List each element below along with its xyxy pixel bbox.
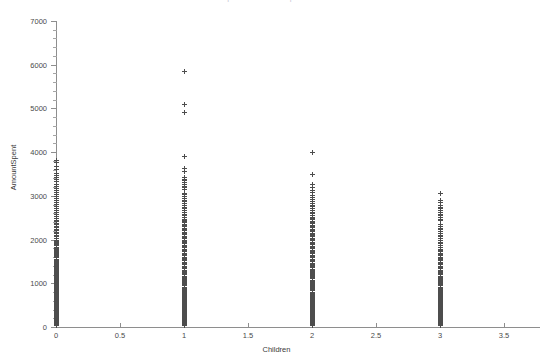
data-point — [182, 283, 187, 288]
data-point — [310, 304, 315, 309]
data-point — [310, 172, 315, 177]
data-point — [310, 225, 315, 230]
data-point — [438, 286, 443, 291]
data-point — [310, 215, 315, 220]
data-point — [438, 261, 443, 266]
data-point — [438, 312, 443, 317]
data-point — [310, 229, 315, 234]
data-point — [182, 240, 187, 245]
data-point — [310, 270, 315, 275]
data-point — [182, 260, 187, 265]
data-point — [438, 316, 443, 321]
data-point — [310, 217, 315, 222]
data-point — [438, 283, 443, 288]
data-point — [182, 219, 187, 224]
data-point — [310, 257, 315, 262]
data-point — [182, 307, 187, 312]
data-point — [438, 271, 443, 276]
data-point — [310, 271, 315, 276]
data-point — [438, 310, 443, 315]
data-point — [182, 231, 187, 236]
data-point — [182, 261, 187, 266]
data-point — [310, 308, 315, 313]
x-tick-label: 3.5 — [484, 331, 524, 340]
y-tick — [51, 65, 57, 66]
data-point — [182, 272, 187, 277]
data-point — [438, 268, 443, 273]
data-point — [310, 262, 315, 267]
data-point — [438, 314, 443, 319]
data-point — [310, 311, 315, 316]
data-point — [438, 233, 443, 238]
data-point — [182, 166, 187, 171]
data-point — [438, 236, 443, 241]
data-point — [438, 205, 443, 210]
y-tick-minor — [53, 135, 57, 136]
data-point — [310, 308, 315, 313]
data-point — [310, 272, 315, 277]
data-point — [182, 305, 187, 310]
data-point — [310, 238, 315, 243]
data-point — [310, 275, 315, 280]
data-point — [438, 213, 443, 218]
y-tick-minor — [53, 275, 57, 276]
data-point — [182, 303, 187, 308]
y-tick-minor — [53, 73, 57, 74]
data-point — [438, 226, 443, 231]
data-point — [438, 300, 443, 305]
data-point — [438, 227, 443, 232]
data-point — [310, 253, 315, 258]
data-point — [182, 307, 187, 312]
data-point — [310, 276, 315, 281]
data-point — [310, 245, 315, 250]
data-point — [310, 294, 315, 299]
data-point — [182, 235, 187, 240]
data-point — [438, 229, 443, 234]
data-point — [310, 311, 315, 316]
x-tick-label: 0.5 — [100, 331, 140, 340]
x-tick-label: 2.5 — [356, 331, 396, 340]
x-tick — [440, 323, 441, 328]
data-point — [438, 308, 443, 313]
data-point — [182, 234, 187, 239]
data-point — [438, 305, 443, 310]
data-point — [438, 272, 443, 277]
data-point — [182, 217, 187, 222]
data-point — [310, 296, 315, 301]
data-point — [182, 296, 187, 301]
data-point — [310, 199, 315, 204]
data-point — [438, 304, 443, 309]
data-point — [310, 301, 315, 306]
data-point — [438, 240, 443, 245]
data-point — [182, 265, 187, 270]
data-point — [310, 314, 315, 319]
data-point — [310, 255, 315, 260]
data-point — [182, 256, 187, 261]
data-point — [438, 251, 443, 256]
data-point — [438, 210, 443, 215]
y-tick-minor — [53, 266, 57, 267]
data-point — [438, 277, 443, 282]
chart-title: Scatterplot of AmountSpent vs Children — [0, 0, 553, 2]
y-tick-minor — [53, 318, 57, 319]
y-tick-label: 5000 — [0, 104, 47, 113]
data-point — [310, 316, 315, 321]
y-tick-minor — [53, 248, 57, 249]
data-point — [438, 293, 443, 298]
data-point — [310, 237, 315, 242]
data-point — [310, 307, 315, 312]
data-point — [182, 102, 187, 107]
data-point — [182, 286, 187, 291]
data-point — [182, 248, 187, 253]
data-point — [438, 282, 443, 287]
data-point — [438, 287, 443, 292]
data-point — [310, 290, 315, 295]
data-point — [182, 177, 187, 182]
data-point — [310, 290, 315, 295]
data-point — [438, 243, 443, 248]
y-tick — [51, 240, 57, 241]
data-point — [438, 318, 443, 323]
y-tick — [51, 283, 57, 284]
data-point — [438, 307, 443, 312]
data-point — [310, 241, 315, 246]
